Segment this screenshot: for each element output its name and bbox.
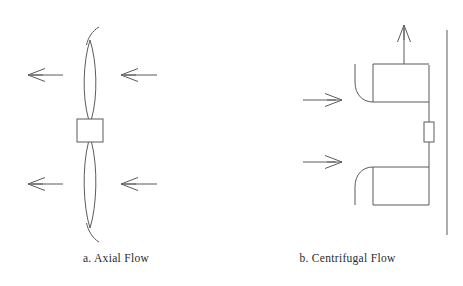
upper-inlet-arrow: [303, 94, 342, 107]
caption-axial-flow: a. Axial Flow: [0, 252, 232, 264]
caption-centrifugal-flow: b. Centrifugal Flow: [232, 252, 463, 264]
lower-vane: [355, 167, 429, 205]
upper-blade: [84, 27, 99, 119]
hub-block: [424, 122, 434, 142]
lower-blade: [84, 142, 99, 242]
axial-flow-panel: [28, 27, 157, 242]
pump-flow-diagram: .ln { fill: none; stroke: #5b5b5b; strok…: [0, 0, 463, 286]
lower-inlet-arrow: [303, 156, 342, 169]
upper-vane: [355, 64, 429, 102]
lower-inner-flow-arrow: [121, 178, 157, 191]
figure-canvas: .ln { fill: none; stroke: #5b5b5b; strok…: [0, 0, 463, 286]
upper-outer-flow-arrow: [28, 69, 63, 82]
discharge-arrow: [398, 25, 411, 64]
hub: [77, 119, 103, 142]
centrifugal-flow-panel: [303, 25, 447, 235]
upper-inner-flow-arrow: [121, 69, 157, 82]
lower-outer-flow-arrow: [28, 178, 63, 191]
